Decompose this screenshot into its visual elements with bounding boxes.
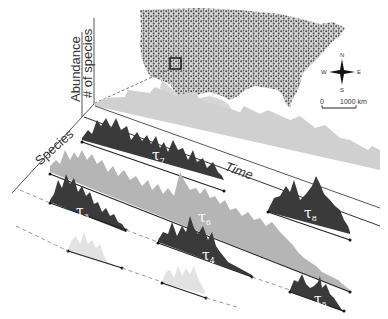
scale-end: 1000 km bbox=[340, 98, 367, 105]
row4-dashed-left bbox=[16, 226, 68, 251]
compass-e: E bbox=[357, 69, 361, 75]
row4-dashed-right bbox=[206, 298, 240, 308]
scale-bar: 0 1000 km bbox=[320, 98, 367, 108]
row3-dashed-mid bbox=[126, 230, 158, 242]
compass-w: W bbox=[321, 69, 327, 75]
scale-start: 0 bbox=[320, 98, 324, 105]
segment-tau1 bbox=[67, 232, 124, 270]
row3-dashed-left bbox=[20, 190, 50, 203]
segment-tau2 bbox=[161, 266, 208, 300]
time-axis-label: Time bbox=[223, 159, 255, 183]
compass-s: S bbox=[340, 87, 344, 93]
row4-dashed-mid bbox=[122, 268, 162, 282]
row3-dashed-right bbox=[252, 277, 290, 290]
compass-rose-icon: N S E W bbox=[321, 52, 361, 93]
species-richness-band bbox=[95, 87, 380, 170]
species-abundance-diagram: N S E W 0 1000 km Abundance # of species… bbox=[0, 0, 388, 319]
compass-n: N bbox=[340, 52, 344, 58]
species-count-axis-label: # of species bbox=[80, 28, 95, 98]
